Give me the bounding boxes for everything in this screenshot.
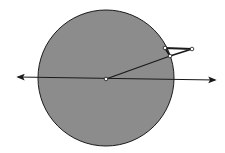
outer-point	[190, 47, 194, 51]
rim-point-upper	[163, 46, 167, 50]
rim-point-lower	[168, 54, 172, 58]
circle-diagram	[0, 0, 225, 153]
center-point	[104, 77, 108, 81]
